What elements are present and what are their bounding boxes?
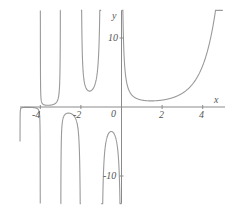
- gamma-branch-0: [20, 107, 40, 203]
- gamma-branch-5: [122, 10, 223, 100]
- x-tick-label-2: 2: [159, 109, 164, 120]
- gamma-function-plot: y x 0 -4 -2 2 4 10 -10: [0, 0, 237, 217]
- gamma-branch-1: [40, 10, 60, 105]
- x-axis-label: x: [213, 94, 219, 105]
- gamma-branch-2: [61, 113, 81, 203]
- y-tick-label-10: 10: [108, 32, 118, 43]
- x-tick-label--2: -2: [73, 109, 81, 120]
- y-tick-label--10: -10: [103, 170, 116, 181]
- gamma-branch-4: [101, 131, 121, 203]
- y-axis-label: y: [111, 10, 117, 21]
- gamma-branch-3: [81, 10, 101, 91]
- x-tick-label-4: 4: [199, 109, 204, 120]
- origin-label: 0: [111, 108, 116, 119]
- x-tick-label--4: -4: [32, 109, 40, 120]
